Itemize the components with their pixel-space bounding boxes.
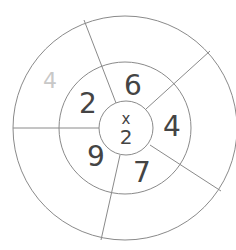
inner-value-bottom-left: 9 xyxy=(87,140,105,173)
inner-value-left: 2 xyxy=(79,87,97,120)
inner-value-top: 6 xyxy=(124,69,142,102)
center-operand: 2 xyxy=(120,125,133,149)
multiplication-wheel: x 2 6 4 7 9 2 4 xyxy=(0,0,236,250)
outer-value-upper-left: 4 xyxy=(43,68,57,93)
inner-value-right: 4 xyxy=(163,110,181,143)
divider-upper-right xyxy=(146,51,210,109)
inner-value-bottom-right: 7 xyxy=(133,156,151,189)
